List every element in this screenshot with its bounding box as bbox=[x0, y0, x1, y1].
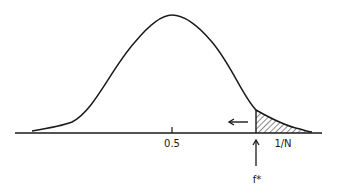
bell-curve bbox=[32, 15, 312, 132]
distribution-diagram: 0.5 1/N f* bbox=[0, 0, 341, 193]
left-arrow-icon bbox=[229, 119, 248, 125]
tail-label: 1/N bbox=[274, 138, 291, 149]
up-arrow-icon bbox=[253, 140, 259, 166]
tick-label: 0.5 bbox=[164, 138, 180, 149]
threshold-label: f* bbox=[253, 174, 262, 185]
